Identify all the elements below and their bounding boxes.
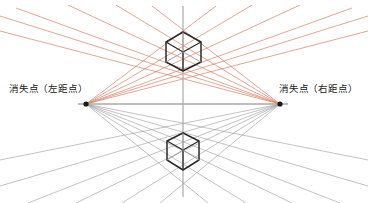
construction-ray	[152, 6, 280, 104]
construction-ray	[86, 5, 252, 104]
construction-ray	[68, 5, 280, 104]
construction-ray	[28, 104, 280, 203]
cube-hidden-edge	[167, 150, 183, 160]
vanishing-point-right-label: 消失点（右距点）	[279, 84, 357, 94]
cube-inner-edge	[167, 141, 183, 150]
vanishing-point-right-dot	[277, 101, 282, 106]
construction-ray	[86, 104, 340, 203]
construction-ray	[86, 6, 216, 104]
vanishing-point-left-label: 消失点（左距点）	[9, 84, 87, 94]
lower-ray-fan	[0, 104, 368, 203]
perspective-canvas	[0, 0, 368, 203]
cube-hidden-edge	[183, 150, 199, 160]
construction-ray	[86, 5, 300, 104]
construction-ray	[0, 104, 280, 160]
cube-inner-edge	[183, 141, 199, 150]
vanishing-point-left-dot	[83, 101, 88, 106]
construction-ray	[86, 104, 368, 186]
construction-ray	[0, 104, 280, 186]
perspective-diagram: 消失点（左距点） 消失点（右距点）	[0, 0, 368, 203]
lower-cube	[167, 133, 199, 170]
construction-ray	[86, 104, 368, 160]
cube-hidden-edge	[183, 52, 201, 62]
